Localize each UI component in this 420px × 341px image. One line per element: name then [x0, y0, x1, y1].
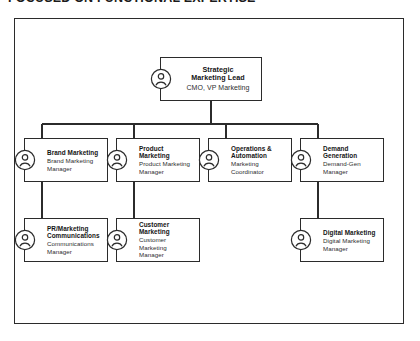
- node-operations-automation[interactable]: Operations & Automation Marketing Coordi…: [208, 138, 292, 182]
- node-title-line-1: Customer Marketing: [139, 221, 195, 236]
- node-label-group: Brand Marketing Brand Marketing Manager: [47, 149, 103, 172]
- node-title-line-1: Operations &: [231, 145, 287, 152]
- node-subtitle-line-1: Product Marketing: [139, 160, 195, 167]
- person-avatar-icon: [14, 149, 36, 171]
- node-title-line-2: Communications: [47, 232, 103, 239]
- node-title-line-2: Marketing Lead: [181, 74, 255, 82]
- node-label-group: PR/Marketing Communications Communicatio…: [47, 225, 103, 255]
- node-subtitle-line-1: Demand-Gen: [323, 160, 379, 167]
- node-label-group: Product Marketing Product Marketing Mana…: [139, 145, 195, 175]
- node-title-line-1: Digital Marketing: [323, 229, 379, 236]
- person-avatar-icon: [106, 149, 128, 171]
- node-title-line-1: Product Marketing: [139, 145, 195, 160]
- person-avatar-icon: [198, 149, 220, 171]
- node-subtitle-line-2: Manager: [323, 244, 379, 251]
- node-brand-marketing[interactable]: Brand Marketing Brand Marketing Manager: [24, 138, 108, 182]
- node-label-group: Digital Marketing Digital Marketing Mana…: [323, 229, 379, 252]
- node-subtitle-line-1: Customer Marketing: [139, 237, 195, 251]
- node-subtitle-line-1: Brand Marketing: [47, 157, 103, 164]
- person-avatar-icon: [290, 229, 312, 251]
- node-subtitle-line-2: Manager: [139, 168, 195, 175]
- node-subtitle-line-1: CMO, VP Marketing: [181, 84, 255, 92]
- node-subtitle-line-2: Manager: [323, 168, 379, 175]
- node-subtitle-line-2: Coordinator: [231, 168, 287, 175]
- node-label-group: Operations & Automation Marketing Coordi…: [231, 145, 287, 175]
- node-demand-generation[interactable]: Demand Generation Demand-Gen Manager: [300, 138, 384, 182]
- node-customer-marketing[interactable]: Customer Marketing Customer Marketing Ma…: [116, 218, 200, 262]
- node-digital-marketing[interactable]: Digital Marketing Digital Marketing Mana…: [300, 218, 384, 262]
- node-subtitle-line-1: Digital Marketing: [323, 237, 379, 244]
- person-avatar-icon: [290, 149, 312, 171]
- node-title-line-1: Demand Generation: [323, 145, 379, 160]
- node-subtitle-line-2: Manager: [47, 248, 103, 255]
- node-title-line-2: Automation: [231, 152, 287, 159]
- node-subtitle-line-2: Manager: [47, 164, 103, 171]
- node-label-group: Demand Generation Demand-Gen Manager: [323, 145, 379, 175]
- node-subtitle-line-2: Manager: [139, 252, 195, 259]
- node-subtitle-line-1: Communications: [47, 240, 103, 247]
- person-avatar-icon: [150, 68, 172, 90]
- node-title-line-1: PR/Marketing: [47, 225, 103, 232]
- node-label-group: Customer Marketing Customer Marketing Ma…: [139, 221, 195, 258]
- node-title-line-1: Brand Marketing: [47, 149, 103, 156]
- person-avatar-icon: [106, 229, 128, 251]
- node-pr-marketing-communications[interactable]: PR/Marketing Communications Communicatio…: [24, 218, 108, 262]
- node-product-marketing[interactable]: Product Marketing Product Marketing Mana…: [116, 138, 200, 182]
- person-avatar-icon: [14, 229, 36, 251]
- node-subtitle-line-1: Marketing: [231, 160, 287, 167]
- node-label-group: Strategic Marketing Lead CMO, VP Marketi…: [181, 66, 255, 92]
- node-strategic-marketing-lead[interactable]: Strategic Marketing Lead CMO, VP Marketi…: [160, 57, 262, 101]
